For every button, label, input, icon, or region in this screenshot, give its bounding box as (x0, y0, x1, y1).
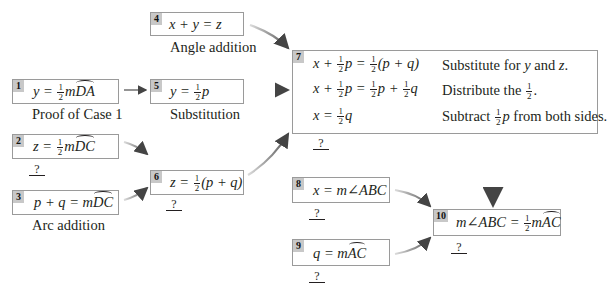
reason-line-3: Subtract 12p from both sides. (442, 108, 607, 127)
step-number: 2 (13, 135, 24, 147)
reason-3: Arc addition (32, 217, 105, 234)
step-number: 1 (13, 80, 24, 92)
statement: z = 12(p + q) (170, 174, 242, 193)
step-number: 10 (434, 210, 448, 222)
step-number: 6 (151, 171, 162, 183)
fraction: 12 (57, 83, 64, 102)
reason-8-blank[interactable]: ? (309, 207, 325, 220)
statement: q = mAC (313, 245, 366, 262)
proof-box-6: 6 z = 12(p + q) (150, 170, 244, 195)
statement: x = m∠ABC (313, 182, 386, 199)
edge-3-6 (124, 188, 147, 200)
proof-box-9: 9 q = mAC (292, 239, 390, 266)
arc-label: AC (348, 245, 367, 262)
step-number: 3 (13, 191, 24, 203)
reason-line-2: Distribute the 12. (442, 82, 537, 101)
reason-9-blank[interactable]: ? (309, 270, 325, 283)
fraction: 12 (524, 214, 531, 233)
statement: m∠ABC = 12mAC (456, 214, 561, 233)
fraction: 12 (194, 83, 201, 102)
step-number: 5 (151, 80, 162, 92)
reason-7-blank[interactable]: ? (313, 137, 329, 150)
reason-4: Angle addition (170, 39, 257, 56)
statement-line-1: x + 12p = 12(p + q) (313, 55, 419, 74)
step-number: 7 (293, 51, 304, 63)
statement-line-3: x = 12q (313, 107, 352, 126)
reason-1: Proof of Case 1 (32, 106, 123, 123)
reason-5: Substitution (170, 106, 240, 123)
step-number: 4 (151, 13, 162, 25)
reason-line-1: Substitute for y and z. (442, 57, 568, 74)
statement: p + q = mDC (34, 194, 113, 211)
edge-6-7 (248, 134, 288, 175)
proof-box-1: 1 y = 12mDA (12, 79, 119, 104)
proof-box-8: 8 x = m∠ABC (292, 177, 390, 203)
edge-9-10 (395, 238, 430, 254)
fraction: 12 (194, 174, 201, 193)
edge-8-10 (395, 190, 430, 206)
proof-box-2: 2 z = 12mDC (12, 134, 119, 159)
arc-label: DC (93, 194, 113, 211)
edge-2-6 (124, 142, 147, 154)
statement: x + y = z (169, 16, 222, 33)
proof-box-10: 10 m∠ABC = 12mAC (433, 209, 561, 236)
step-number: 8 (293, 178, 304, 190)
proof-box-3: 3 p + q = mDC (12, 190, 119, 215)
fraction: 12 (57, 138, 64, 157)
statement: y = 12mDA (33, 83, 95, 102)
arc-label: DC (75, 138, 95, 155)
reason-10-blank[interactable]: ? (451, 241, 467, 254)
proof-box-4: 4 x + y = z (150, 12, 244, 36)
arc-label: DA (75, 83, 94, 100)
arc-label: AC (542, 214, 561, 231)
step-number: 9 (293, 240, 304, 252)
statement: z = 12mDC (33, 138, 95, 157)
proof-box-5: 5 y = 12p (150, 79, 244, 104)
reason-6-blank[interactable]: ? (166, 198, 182, 211)
proof-box-7: 7 x + 12p = 12(p + q) Substitute for y a… (292, 50, 598, 134)
statement-line-2: x + 12p = 12p + 12q (313, 80, 418, 99)
statement: y = 12p (170, 83, 209, 102)
reason-2-blank[interactable]: ? (29, 163, 45, 176)
